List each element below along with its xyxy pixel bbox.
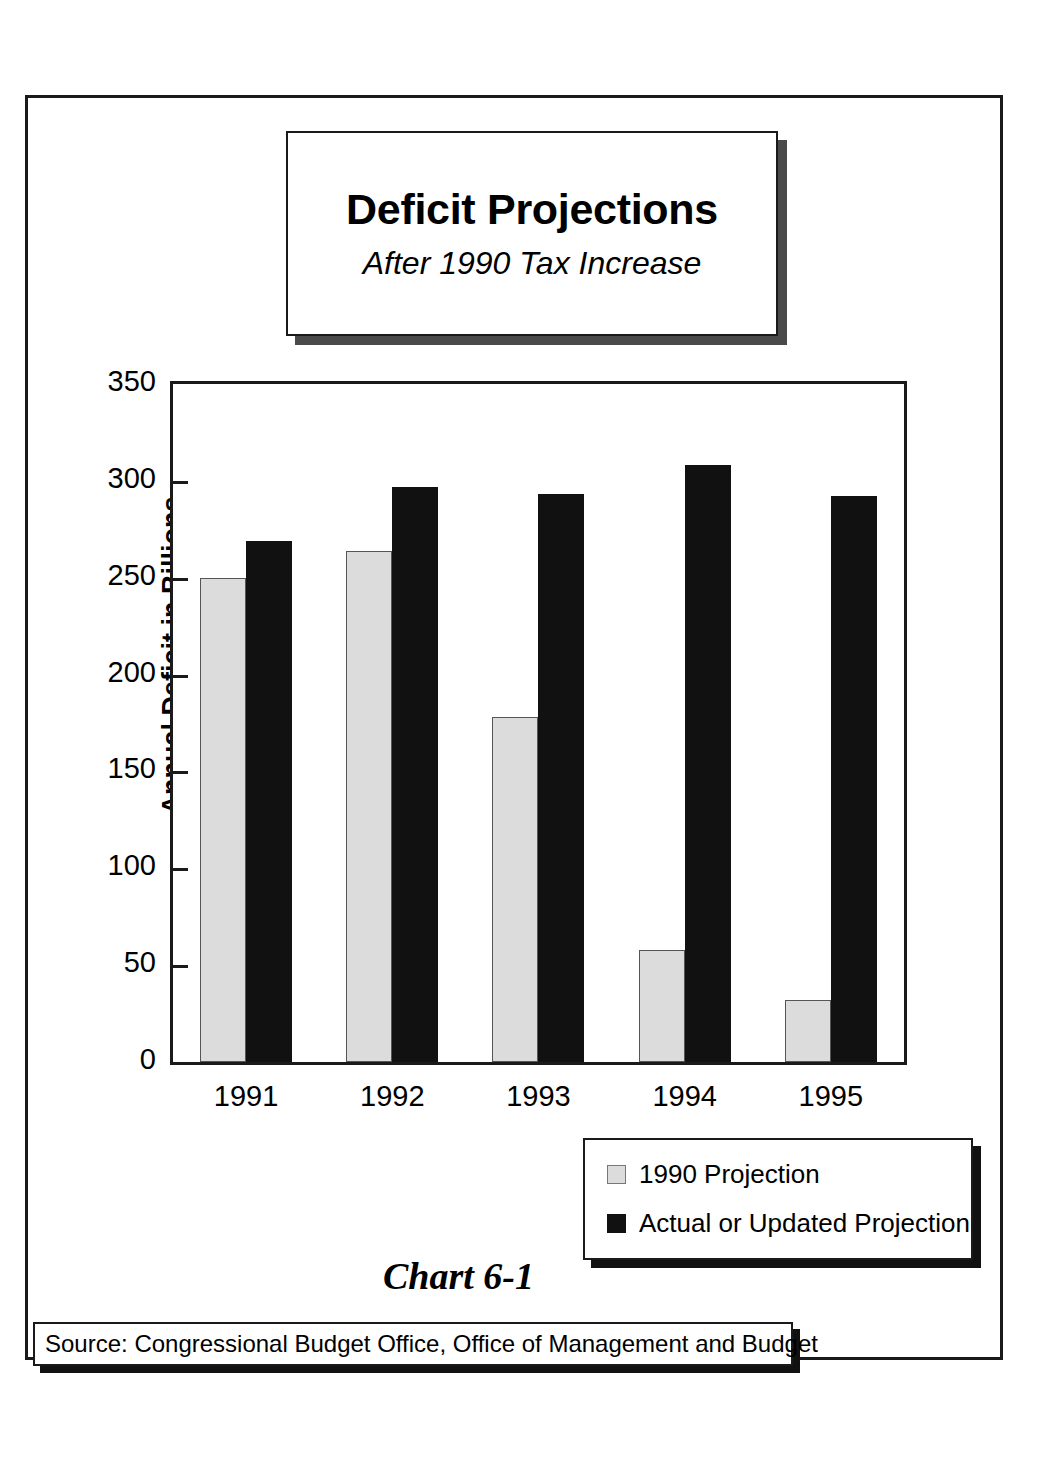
chart-subtitle: After 1990 Tax Increase <box>363 245 702 282</box>
chart-number: Chart 6-1 <box>383 1254 534 1298</box>
legend-box: 1990 ProjectionActual or Updated Project… <box>583 1138 973 1260</box>
title-box: Deficit Projections After 1990 Tax Incre… <box>286 131 778 336</box>
legend-item[interactable]: Actual or Updated Projection <box>607 1208 971 1239</box>
source-text: Source: Congressional Budget Office, Off… <box>45 1330 818 1358</box>
legend-item[interactable]: 1990 Projection <box>607 1159 971 1190</box>
legend-swatch-icon <box>607 1165 626 1184</box>
source-box: Source: Congressional Budget Office, Off… <box>33 1322 793 1366</box>
legend-swatch-icon <box>607 1214 626 1233</box>
chart-title: Deficit Projections <box>346 185 718 234</box>
legend-label: 1990 Projection <box>639 1159 820 1190</box>
legend-label: Actual or Updated Projection <box>639 1208 970 1239</box>
